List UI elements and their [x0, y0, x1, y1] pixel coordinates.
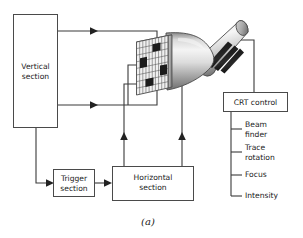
wire-vertical-to-trigger	[36, 128, 54, 187]
intensity-label: Intensity	[245, 191, 279, 200]
arrowhead-icon	[90, 27, 98, 35]
trace-rotation-label-line2: rotation	[245, 153, 275, 162]
block-trigger-section[interactable]: Trigger section	[54, 170, 95, 197]
vertical-section-label-line1: Vertical	[21, 62, 49, 71]
arrowhead-icon	[120, 132, 128, 140]
horizontal-section-label-line1: Horizontal	[134, 173, 173, 182]
trigger-section-label-line1: Trigger	[60, 174, 88, 183]
trigger-section-label-line2: section	[60, 184, 88, 193]
right-plate-icon	[160, 64, 167, 75]
wire-horizontal-to-crt-bottom	[120, 84, 143, 166]
block-vertical-section[interactable]: Vertical section	[14, 15, 58, 128]
crt-control-item-trace-rotation[interactable]: Trace rotation	[244, 143, 275, 162]
beam-finder-label-line1: Beam	[245, 120, 267, 129]
horizontal-section-label-line2: section	[139, 183, 167, 192]
arrowhead-icon	[46, 179, 54, 187]
crt-control-branch-lines	[231, 111, 242, 196]
crt-control-label: CRT control	[234, 98, 277, 107]
screen-right-bevel	[168, 35, 172, 88]
vertical-section-label-line2: section	[22, 72, 50, 81]
arrowhead-icon	[178, 132, 186, 140]
cathode-ray-tube-graphic	[137, 21, 249, 95]
arrowhead-icon	[104, 179, 112, 187]
crt-control-item-intensity[interactable]: Intensity	[245, 191, 279, 200]
trace-rotation-label-line1: Trace	[244, 143, 265, 152]
oscilloscope-block-diagram-figure: Vertical section Trigger section Horizon…	[0, 0, 303, 238]
block-horizontal-section[interactable]: Horizontal section	[113, 167, 194, 201]
crt-control-item-beam-finder[interactable]: Beam finder	[245, 120, 268, 139]
crt-screen-graticule	[137, 36, 169, 96]
figure-caption: (a)	[141, 216, 155, 227]
crt-control-item-focus[interactable]: Focus	[245, 170, 267, 179]
block-crt-control[interactable]: CRT control	[224, 93, 288, 112]
beam-finder-label-line2: finder	[245, 130, 268, 139]
crt-control-list: Beam finder Trace rotation Focus Intensi…	[244, 120, 279, 200]
arrowhead-icon	[90, 101, 98, 109]
focus-label: Focus	[245, 170, 267, 179]
wire-trigger-to-horizontal	[94, 179, 112, 187]
crt-bulb	[166, 33, 214, 90]
left-plate-icon	[140, 57, 147, 68]
